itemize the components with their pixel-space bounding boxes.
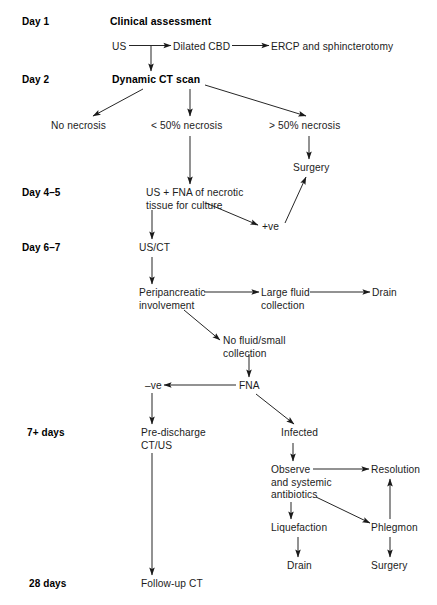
node-follow-up-ct: Follow-up CT — [141, 578, 203, 591]
node-resolution: Resolution — [371, 464, 420, 477]
node-surgery-upper: Surgery — [293, 162, 329, 175]
node-dilated-cbd: Dilated CBD — [173, 41, 230, 54]
edge-fna-to-infected — [256, 394, 294, 424]
edge-dynamic-ct-to-gt50 — [205, 85, 306, 116]
node-dynamic-ct-scan: Dynamic CT scan — [112, 74, 200, 87]
node-observe-and-systemic-antibiotics: Observe and systemic antibiotics — [271, 464, 332, 502]
node-no-fluid-small-collection: No fluid/small collection — [223, 335, 286, 360]
arrow-layer — [0, 0, 437, 605]
node-negative-ve: –ve — [145, 380, 162, 393]
edge-positive-to-surgery — [285, 177, 306, 223]
node-drain-lower: Drain — [287, 560, 312, 573]
node-positive-ve: +ve — [262, 221, 279, 234]
timeline-label-7plus-days: 7+ days — [27, 427, 65, 440]
node-ercp-and-sphincterotomy: ERCP and sphincterotomy — [271, 41, 393, 54]
node-us: US — [112, 41, 126, 54]
node-us-plus-fna-of-necrotic-tissue: US + FNA of necrotic tissue for culture — [146, 187, 243, 212]
node-infected: Infected — [281, 427, 318, 440]
timeline-label-day1: Day 1 — [22, 16, 49, 29]
node-fna: FNA — [239, 380, 260, 393]
node-phlegmon: Phlegmon — [371, 522, 418, 535]
node-large-fluid-collection: Large fluid collection — [261, 287, 310, 312]
node-greater-than-50-percent-necrosis: > 50% necrosis — [269, 120, 340, 133]
timeline-label-day2: Day 2 — [22, 74, 49, 87]
node-no-necrosis: No necrosis — [51, 120, 106, 133]
node-surgery-lower: Surgery — [371, 560, 407, 573]
flowchart-canvas: Day 1 Day 2 Day 4–5 Day 6–7 7+ days 28 d… — [0, 0, 437, 605]
node-peripancreatic-involvement: Peripancreatic involvement — [139, 287, 206, 312]
edge-peripancreatic-to-no-fluid — [184, 310, 220, 340]
timeline-label-day6-7: Day 6–7 — [22, 242, 61, 255]
edge-dynamic-ct-to-no-necrosis — [93, 89, 143, 116]
node-less-than-50-percent-necrosis: < 50% necrosis — [151, 120, 222, 133]
node-drain-upper: Drain — [372, 287, 397, 300]
node-clinical-assessment: Clinical assessment — [110, 16, 211, 29]
timeline-label-day4-5: Day 4–5 — [22, 187, 61, 200]
node-us-ct: US/CT — [139, 242, 170, 255]
node-pre-discharge-ct-us: Pre-discharge CT/US — [141, 427, 206, 452]
timeline-label-28-days: 28 days — [29, 578, 66, 591]
node-liquefaction: Liquefaction — [271, 522, 327, 535]
